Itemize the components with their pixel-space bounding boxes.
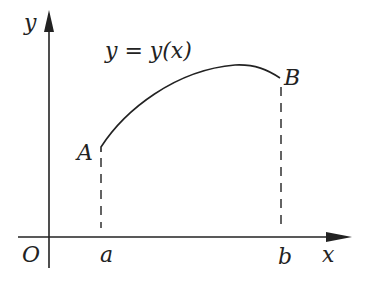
curve-equation-label: y = y(x) <box>104 38 192 63</box>
x-axis <box>18 232 352 242</box>
point-a-label: A <box>75 140 93 165</box>
curve-y-of-x <box>101 65 280 152</box>
x-axis-label: x <box>322 242 335 267</box>
y-axis <box>44 10 54 268</box>
tick-a-label: a <box>100 242 113 267</box>
y-axis-arrow-icon <box>44 10 54 32</box>
y-axis-label: y <box>23 10 37 35</box>
x-axis-arrow-icon <box>326 232 352 242</box>
origin-label: O <box>22 242 40 267</box>
tick-b-label: b <box>278 244 292 269</box>
point-b-label: B <box>283 65 300 90</box>
diagram-canvas: y x O a b A B y = y(x) <box>0 0 372 286</box>
